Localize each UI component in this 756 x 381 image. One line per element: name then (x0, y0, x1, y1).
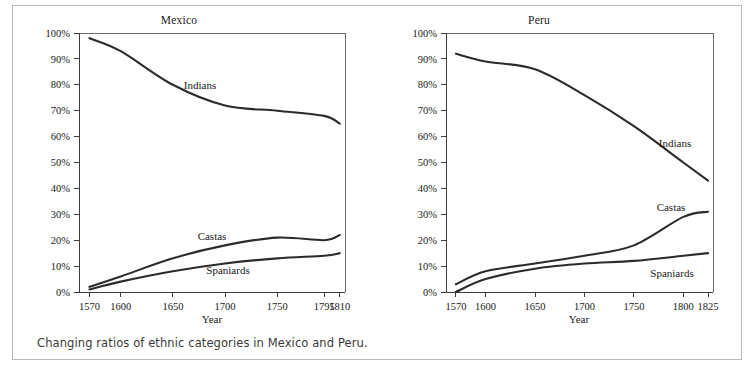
figure-page: Mexico 0%10%20%30%40%50%60%70%80%90%100%… (0, 0, 756, 381)
svg-text:1570: 1570 (79, 301, 100, 312)
plot-frame-mexico (79, 33, 345, 292)
svg-text:1650: 1650 (525, 301, 546, 312)
chart-plot-peru: 0%10%20%30%40%50%60%70%80%90%100% 157016… (379, 6, 743, 326)
svg-text:10%: 10% (418, 261, 438, 272)
svg-text:100%: 100% (46, 28, 71, 39)
svg-text:30%: 30% (51, 209, 71, 220)
series-lines-peru (456, 54, 708, 292)
svg-text:80%: 80% (418, 79, 438, 90)
svg-text:1825: 1825 (698, 301, 719, 312)
svg-text:1810: 1810 (329, 301, 350, 312)
y-axis-ticks-mexico: 0%10%20%30%40%50%60%70%80%90%100% (46, 28, 80, 298)
svg-text:1800: 1800 (673, 301, 694, 312)
svg-text:1750: 1750 (267, 301, 288, 312)
series-line-indians (456, 54, 708, 181)
svg-text:40%: 40% (51, 183, 71, 194)
series-label-spaniards-mexico: Spaniards (206, 264, 249, 276)
svg-text:90%: 90% (51, 54, 71, 65)
svg-text:50%: 50% (418, 157, 438, 168)
series-label-spaniards-peru: Spaniards (650, 267, 693, 279)
svg-text:1600: 1600 (110, 301, 131, 312)
svg-text:1700: 1700 (215, 301, 236, 312)
series-label-indians-mexico: Indians (184, 79, 216, 91)
chart-plot-mexico: 0%10%20%30%40%50%60%70%80%90%100% 157016… (13, 6, 379, 326)
svg-text:1650: 1650 (162, 301, 183, 312)
series-label-indians-peru: Indians (659, 137, 691, 149)
svg-text:40%: 40% (418, 183, 438, 194)
svg-text:70%: 70% (418, 105, 438, 116)
series-label-castas-mexico: Castas (198, 230, 227, 242)
svg-text:100%: 100% (413, 28, 438, 39)
svg-text:60%: 60% (418, 131, 438, 142)
svg-text:10%: 10% (51, 261, 71, 272)
svg-text:70%: 70% (51, 105, 71, 116)
series-line-castas (89, 235, 339, 287)
plot-frame-peru (446, 33, 713, 292)
svg-text:1570: 1570 (445, 301, 466, 312)
svg-text:1700: 1700 (574, 301, 595, 312)
svg-text:90%: 90% (418, 54, 438, 65)
x-axis-label-peru: Year (569, 313, 590, 325)
series-label-castas-peru: Castas (657, 201, 686, 213)
chart-panel-peru: Peru 0%10%20%30%40%50%60%70%80%90%100% 1… (379, 6, 743, 326)
series-lines-mexico (89, 38, 339, 289)
svg-text:1750: 1750 (623, 301, 644, 312)
chart-panel-mexico: Mexico 0%10%20%30%40%50%60%70%80%90%100%… (13, 6, 379, 326)
x-axis-ticks-mexico: 1570160016501700175017951810 (79, 292, 350, 312)
svg-text:30%: 30% (418, 209, 438, 220)
svg-text:20%: 20% (51, 235, 71, 246)
svg-text:80%: 80% (51, 79, 71, 90)
svg-text:50%: 50% (51, 157, 71, 168)
svg-text:60%: 60% (51, 131, 71, 142)
x-axis-ticks-peru: 1570160016501700175018001825 (445, 292, 718, 312)
svg-text:1600: 1600 (475, 301, 496, 312)
x-axis-label-mexico: Year (202, 313, 223, 325)
figure-frame: Mexico 0%10%20%30%40%50%60%70%80%90%100%… (12, 5, 742, 360)
svg-text:20%: 20% (418, 235, 438, 246)
svg-text:0%: 0% (423, 287, 437, 298)
y-axis-ticks-peru: 0%10%20%30%40%50%60%70%80%90%100% (413, 28, 447, 298)
figure-caption: Changing ratios of ethnic categories in … (37, 336, 368, 350)
svg-text:0%: 0% (56, 287, 70, 298)
